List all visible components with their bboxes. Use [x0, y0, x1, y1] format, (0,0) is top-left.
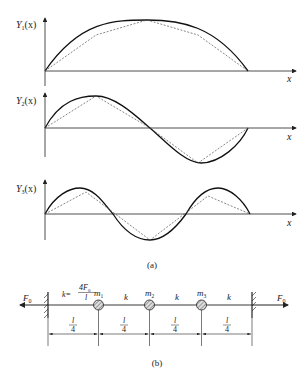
x-axis-label: x — [286, 217, 292, 228]
spacing-label-2: l 4 — [120, 316, 128, 334]
force-right-label: F0 — [276, 293, 286, 304]
y-axis-label: Y2(x) — [16, 95, 36, 107]
mode-curve — [45, 20, 248, 71]
y-axis-label: Y1(x) — [16, 19, 36, 31]
mass-2: m2 — [145, 288, 155, 310]
stiffness-prefix: k= — [62, 290, 71, 299]
svg-text:4: 4 — [122, 325, 126, 334]
mass-1: m1 — [94, 288, 104, 310]
right-wall-hatching — [252, 292, 256, 311]
svg-text:m2: m2 — [145, 288, 155, 299]
spring-label-3: k — [227, 292, 232, 302]
caption-a: (a) — [147, 260, 157, 270]
stiffness-numerator: 4F0 — [79, 283, 91, 293]
discrete-approximation — [45, 20, 248, 71]
y-axis-label: Y3(x) — [16, 183, 36, 195]
spacing-label-4: l 4 — [223, 316, 231, 334]
plot-mode-2: Y2(x) x — [16, 93, 296, 163]
force-left-label: F0 — [22, 293, 32, 304]
svg-text:4: 4 — [173, 325, 177, 334]
spacing-label-1: l 4 — [69, 316, 77, 334]
x-axis-label: x — [286, 131, 292, 142]
plot-mode-3: Y3(x) x — [16, 180, 296, 240]
svg-text:l: l — [123, 316, 126, 325]
mode-curve — [45, 96, 248, 163]
discrete-approximation — [45, 96, 248, 163]
spacing-label-3: l 4 — [171, 316, 179, 334]
plot-mode-1: Y1(x) x — [16, 18, 296, 86]
svg-text:l: l — [72, 316, 75, 325]
svg-text:m1: m1 — [94, 288, 104, 299]
stiffness-denominator: l — [85, 293, 88, 302]
x-axis-label: x — [286, 73, 292, 84]
svg-text:4: 4 — [225, 325, 229, 334]
svg-text:l: l — [226, 316, 229, 325]
discrete-approximation — [45, 192, 250, 240]
diagram-canvas: Y1(x) x Y2(x) x Y3(x) x (a) — [0, 0, 306, 384]
svg-text:m3: m3 — [197, 288, 207, 299]
spring-label-1: k — [124, 292, 129, 302]
dimension-extension-lines — [48, 310, 252, 346]
spring-label-2: k — [175, 292, 180, 302]
svg-text:l: l — [174, 316, 177, 325]
beaded-string-model: F0 F0 k= 4F0 l k k k m1 m2 m3 — [20, 283, 288, 346]
mass-3: m3 — [197, 288, 207, 310]
caption-b: (b) — [152, 358, 163, 368]
svg-text:4: 4 — [71, 325, 75, 334]
